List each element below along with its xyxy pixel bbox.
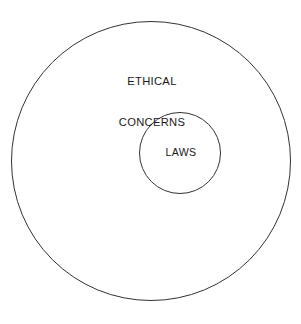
diagram-canvas: ETHICAL CONCERNS LAWS [0,0,301,324]
outer-circle-label: ETHICAL CONCERNS [92,48,212,157]
outer-circle-label-line-2: CONCERNS [92,116,212,130]
inner-circle-label: LAWS [140,146,222,159]
outer-circle-label-line-1: ETHICAL [92,75,212,89]
